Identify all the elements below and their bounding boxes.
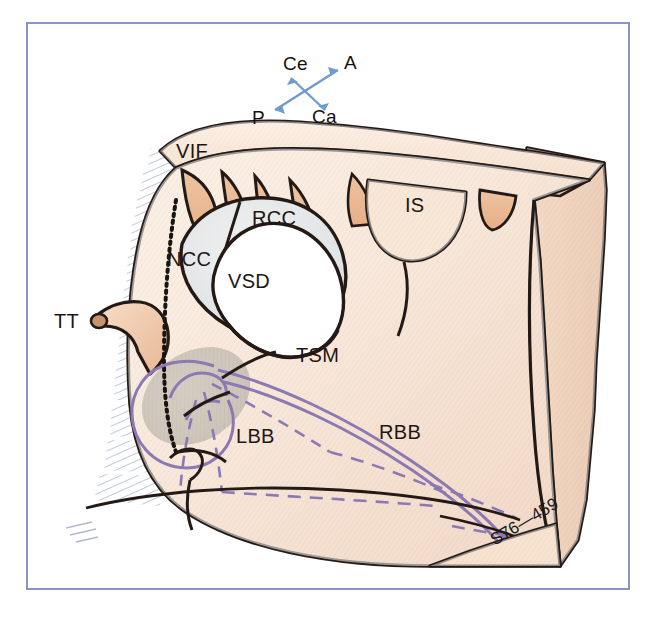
compass-label-cephalad: Ce (283, 53, 308, 75)
label-ncc: NCC (167, 248, 211, 271)
figure-caption (20, 604, 640, 624)
figure-canvas: Ce A P Ca VIF RCC NCC VSD IS TT TSM LBB … (0, 0, 658, 624)
tt-tip (91, 314, 107, 328)
label-rbb: RBB (379, 421, 421, 444)
label-lbb: LBB (236, 425, 275, 448)
compass-label-caudad: Ca (312, 106, 337, 128)
label-vsd: VSD (228, 270, 270, 293)
label-rcc: RCC (252, 207, 296, 230)
compass-label-anterior: A (344, 52, 357, 74)
anatomy-illustration (0, 0, 658, 624)
label-is: IS (405, 194, 425, 217)
label-tsm: TSM (296, 344, 339, 367)
label-tt: TT (54, 310, 79, 333)
compass-label-posterior: P (252, 107, 265, 129)
label-vif: VIF (176, 140, 208, 163)
